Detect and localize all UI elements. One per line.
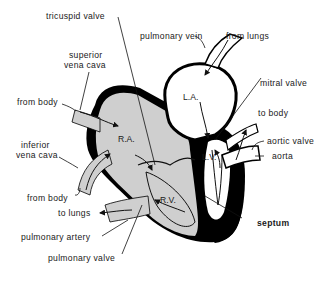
- chamber-label-lv: L.V.: [202, 152, 217, 162]
- heart-diagram: R.A. R.V. L.A. L.V. tricuspid valve pulm…: [0, 0, 336, 282]
- label-to-body: to body: [258, 108, 288, 118]
- pulmonary-artery: [105, 196, 150, 222]
- label-superior-vena-cava-2: vena cava: [64, 60, 106, 70]
- label-superior-vena-cava-1: superior: [69, 50, 102, 60]
- label-from-body-top: from body: [17, 97, 58, 107]
- label-mitral-valve: mitral valve: [260, 78, 307, 88]
- label-aorta: aorta: [272, 151, 293, 161]
- label-inferior-vena-cava-1: inferior: [21, 140, 50, 150]
- chamber-label-ra: R.A.: [118, 134, 135, 144]
- label-pulmonary-vein: pulmonary vein: [140, 31, 202, 41]
- chamber-label-rv: R.V.: [160, 195, 176, 205]
- label-septum: septum: [257, 218, 289, 228]
- chamber-label-la: L.A.: [183, 92, 198, 102]
- label-inferior-vena-cava-2: vena cava: [16, 150, 58, 160]
- left-atrium: [165, 64, 236, 140]
- label-to-lungs: to lungs: [58, 208, 91, 218]
- label-pulmonary-valve: pulmonary valve: [48, 253, 115, 263]
- label-from-lungs: from lungs: [226, 31, 269, 41]
- label-tricuspid-valve: tricuspid valve: [46, 11, 105, 21]
- label-aortic-valve: aortic valve: [267, 136, 314, 146]
- label-pulmonary-artery: pulmonary artery: [21, 232, 90, 242]
- label-from-body-bottom: from body: [27, 193, 68, 203]
